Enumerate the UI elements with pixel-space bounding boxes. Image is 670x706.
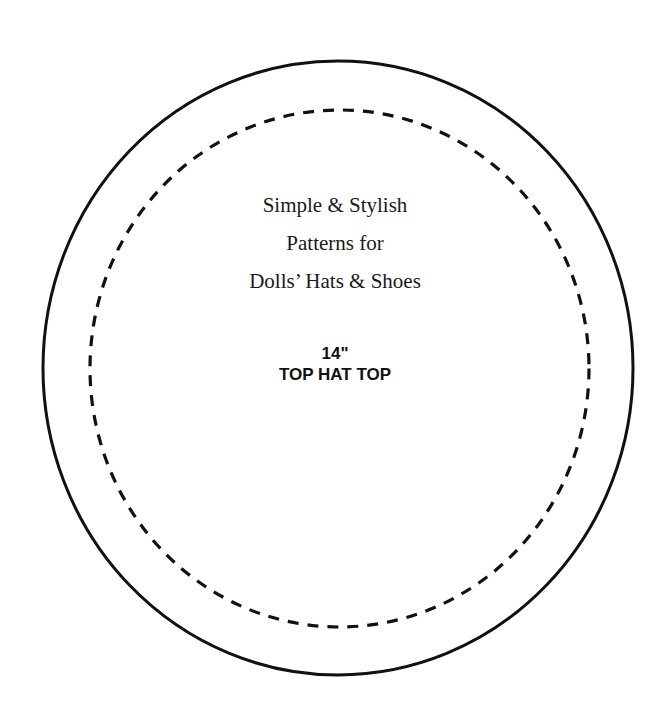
pattern-name: TOP HAT TOP	[0, 364, 670, 385]
title-line-1: Simple & Stylish	[0, 186, 670, 224]
pattern-label: 14" TOP HAT TOP	[0, 343, 670, 385]
title-line-3: Dolls’ Hats & Shoes	[0, 262, 670, 300]
book-title: Simple & Stylish Patterns for Dolls’ Hat…	[0, 186, 670, 300]
title-line-2: Patterns for	[0, 224, 670, 262]
pattern-size: 14"	[0, 343, 670, 364]
